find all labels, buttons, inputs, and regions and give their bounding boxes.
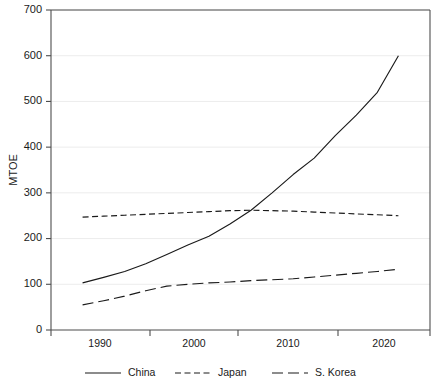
legend-label-japan: Japan bbox=[218, 366, 247, 378]
x-tick-label: 2020 bbox=[372, 337, 396, 349]
chart-background bbox=[0, 0, 436, 392]
y-tick-label: 0 bbox=[36, 323, 42, 335]
x-tick-label: 2010 bbox=[276, 337, 300, 349]
chart-canvas: 0100200300400500600700 1990200020102020 … bbox=[0, 0, 436, 392]
x-tick-label: 2000 bbox=[182, 337, 206, 349]
x-tick-label: 1990 bbox=[88, 337, 112, 349]
y-tick-label: 700 bbox=[24, 3, 42, 15]
y-tick-label: 100 bbox=[24, 277, 42, 289]
line-chart: 0100200300400500600700 1990200020102020 … bbox=[0, 0, 436, 392]
y-tick-label: 600 bbox=[24, 49, 42, 61]
y-axis-title: MTOE bbox=[7, 154, 19, 186]
y-tick-label: 400 bbox=[24, 140, 42, 152]
y-tick-label: 300 bbox=[24, 186, 42, 198]
y-tick-label: 200 bbox=[24, 231, 42, 243]
legend-label-china: China bbox=[128, 366, 156, 378]
y-tick-label: 500 bbox=[24, 94, 42, 106]
legend-label-s-korea: S. Korea bbox=[315, 366, 356, 378]
